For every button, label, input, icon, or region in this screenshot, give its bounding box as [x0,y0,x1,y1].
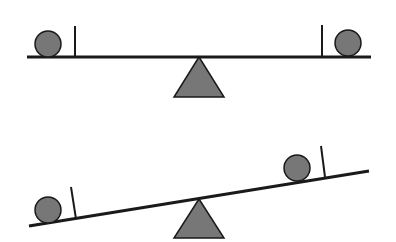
right-ball [284,155,310,181]
fulcrum-triangle [174,57,224,97]
tilted-seesaw [29,146,369,238]
seesaw-diagram [0,0,396,242]
fulcrum-triangle [174,199,224,238]
left-ball [35,31,61,57]
left-stop-post [71,187,76,219]
right-stop-post [321,146,325,177]
right-ball [335,30,361,56]
balanced-seesaw [27,25,371,97]
left-ball [35,197,61,223]
